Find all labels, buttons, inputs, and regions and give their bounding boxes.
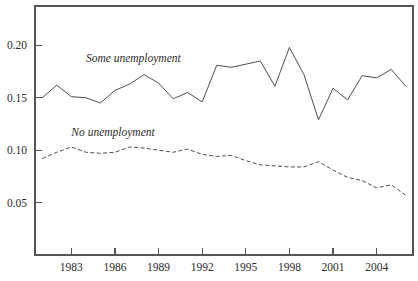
y-axis-ticks bbox=[35, 45, 42, 202]
x-tick-label: 1992 bbox=[191, 261, 214, 273]
series-label-some-unemployment: Some unemployment bbox=[86, 52, 182, 65]
x-tick-label: 2004 bbox=[365, 261, 388, 273]
y-tick-label: 0.05 bbox=[7, 197, 27, 209]
line-chart: 0.200.150.100.05 19831986198919921995199… bbox=[0, 0, 418, 281]
x-tick-label: 1989 bbox=[147, 261, 170, 273]
y-axis-tick-labels: 0.200.150.100.05 bbox=[7, 39, 27, 208]
x-tick-label: 1998 bbox=[278, 261, 301, 273]
series-group bbox=[42, 47, 405, 195]
x-tick-label: 1995 bbox=[234, 261, 257, 273]
y-tick-label: 0.15 bbox=[7, 92, 27, 104]
x-tick-label: 2001 bbox=[322, 261, 345, 273]
chart-figure: 0.200.150.100.05 19831986198919921995199… bbox=[0, 0, 418, 281]
series-line-no-unemployment bbox=[42, 147, 405, 195]
x-tick-label: 1983 bbox=[60, 261, 83, 273]
x-axis-tick-labels: 19831986198919921995199820012004 bbox=[60, 261, 389, 273]
series-annotation-group: Some unemploymentNo unemployment bbox=[70, 52, 181, 139]
x-tick-label: 1986 bbox=[103, 261, 126, 273]
y-tick-label: 0.20 bbox=[7, 39, 27, 51]
x-axis-ticks bbox=[71, 248, 376, 255]
y-tick-label: 0.10 bbox=[7, 144, 27, 156]
series-label-no-unemployment: No unemployment bbox=[70, 126, 155, 139]
